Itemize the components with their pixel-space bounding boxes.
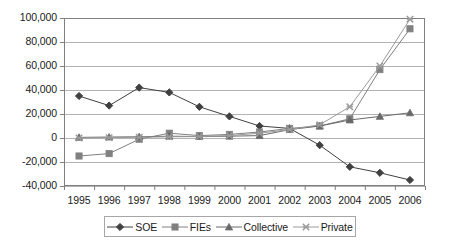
x-axis-tick-label: 2006 [393,194,427,206]
data-point-marker-square [76,153,82,159]
data-point-marker-cross [302,223,308,229]
legend-marker-square-icon [162,221,188,233]
x-axis-tick-label: 2003 [303,194,337,206]
legend-marker-cross-icon [293,221,319,233]
line-chart: 100,00080,00060,00040,00020,0000-20,000-… [0,0,457,243]
legend-label: FIEs [190,221,211,233]
y-axis-tick-label: -40,000 [22,179,57,191]
data-point-marker-diamond [117,223,124,230]
data-point-marker-square [172,223,178,229]
x-axis-tick-label: 2004 [333,194,367,206]
legend-entry-collective[interactable]: Collective [216,221,289,233]
x-axis-tick-label: 2000 [212,194,246,206]
plot-area [0,0,457,243]
x-axis-tick-label: 1995 [62,194,96,206]
legend-marker-triangle-icon [216,221,242,233]
x-axis-tick-label: 2001 [243,194,277,206]
y-axis-tick-label: 60,000 [25,59,57,71]
legend-entry-soe[interactable]: SOE [107,221,157,233]
legend-marker-diamond-icon [107,221,133,233]
y-axis-tick-label: 80,000 [25,35,57,47]
x-axis-tick-label: 2002 [273,194,307,206]
y-axis-tick-label: 100,000 [20,11,57,23]
y-axis-tick-label: 40,000 [25,83,57,95]
y-axis-tick-label: 0 [51,131,57,143]
legend-label: SOE [135,221,157,233]
x-axis-tick-label: 1996 [92,194,126,206]
legend-label: Collective [244,221,289,233]
legend-label: Private [321,221,353,233]
y-axis-tick-label: -20,000 [22,155,57,167]
x-axis-tick-label: 1999 [182,194,216,206]
legend-entry-private[interactable]: Private [293,221,353,233]
chart-legend: SOEFIEsCollectivePrivate [104,216,356,237]
x-axis-tick-label: 1998 [152,194,186,206]
data-point-marker-square [106,151,112,157]
data-point-marker-square [407,26,413,32]
plot-background [64,18,425,186]
legend-entry-fies[interactable]: FIEs [162,221,211,233]
x-axis-tick-label: 1997 [122,194,156,206]
x-axis-tick-label: 2005 [363,194,397,206]
y-axis-tick-label: 20,000 [25,107,57,119]
